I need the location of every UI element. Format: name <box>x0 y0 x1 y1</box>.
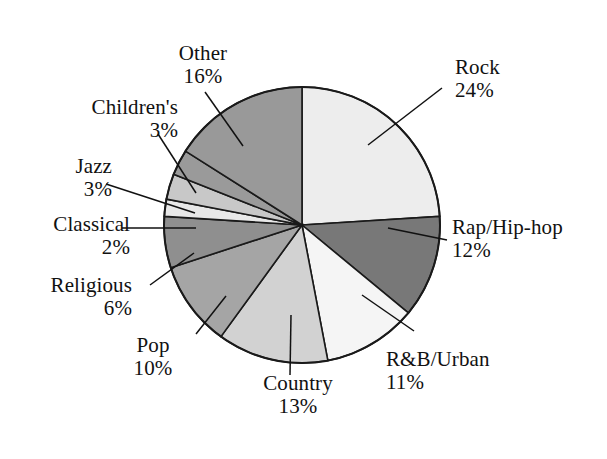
slice-label-rap-hip-hop: Rap/Hip-hop 12% <box>452 216 604 261</box>
slice-label-country-percent: 13% <box>238 395 358 418</box>
slice-label-rock: Rock 24% <box>455 56 565 101</box>
slice-label-country: Country 13% <box>238 372 358 417</box>
slice-label-childrens-percent: 3% <box>48 119 178 142</box>
slice-label-religious-percent: 6% <box>10 297 132 320</box>
slice-label-jazz: Jazz 3% <box>22 155 112 200</box>
slice-label-pop-name: Pop <box>108 334 198 357</box>
slice-label-rnb-urban-name: R&B/Urban <box>386 348 531 371</box>
slice-label-country-name: Country <box>238 372 358 395</box>
slice-label-rnb-urban-percent: 11% <box>386 371 531 394</box>
slice-label-jazz-percent: 3% <box>22 178 112 201</box>
slice-label-other-percent: 16% <box>148 65 258 88</box>
pie-slice-rock <box>302 87 440 225</box>
slice-label-childrens: Children's 3% <box>48 96 178 141</box>
slice-label-other-name: Other <box>148 42 258 65</box>
slice-label-rnb-urban: R&B/Urban 11% <box>386 348 531 393</box>
leader-line-country <box>290 315 291 375</box>
slice-label-rap-hip-hop-percent: 12% <box>452 239 604 262</box>
slice-label-pop-percent: 10% <box>108 357 198 380</box>
slice-label-rock-percent: 24% <box>455 79 565 102</box>
slice-label-rap-hip-hop-name: Rap/Hip-hop <box>452 216 604 239</box>
slice-label-classical-percent: 2% <box>10 236 130 259</box>
slice-label-childrens-name: Children's <box>48 96 178 119</box>
slice-label-pop: Pop 10% <box>108 334 198 379</box>
slice-label-religious: Religious 6% <box>10 274 132 319</box>
slice-label-classical-name: Classical <box>10 213 130 236</box>
slice-label-religious-name: Religious <box>10 274 132 297</box>
pie-chart-figure: Rock 24% Rap/Hip-hop 12% R&B/Urban 11% C… <box>0 0 607 459</box>
slice-label-rock-name: Rock <box>455 56 565 79</box>
slice-label-jazz-name: Jazz <box>22 155 112 178</box>
slice-label-other: Other 16% <box>148 42 258 87</box>
slice-label-classical: Classical 2% <box>10 213 130 258</box>
